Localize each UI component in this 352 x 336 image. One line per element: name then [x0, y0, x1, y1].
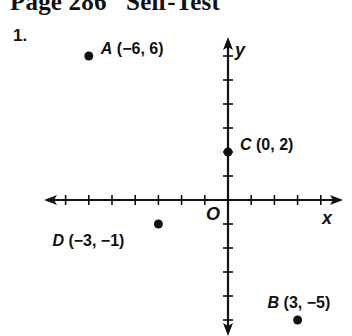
ticks: [66, 56, 321, 320]
point-b: [293, 316, 302, 325]
x-axis-label: x: [321, 208, 333, 228]
point-a: [84, 52, 93, 61]
point-label-a: A (−6, 6): [100, 40, 164, 57]
point-label-b: B (3, −5): [268, 294, 331, 311]
origin-label: O: [206, 204, 220, 224]
point-coordinates: (3, −5): [279, 294, 330, 311]
point-d: [154, 220, 163, 229]
point-letter: D: [52, 232, 64, 249]
point-label-c: C (0, 2): [240, 136, 293, 153]
y-axis-label: y: [234, 40, 246, 60]
axes: [44, 37, 343, 336]
point-letter: B: [268, 294, 280, 311]
point-coordinates: (−3, −1): [64, 232, 124, 249]
point-letter: A: [100, 40, 113, 57]
point-letter: C: [240, 136, 252, 153]
point-coordinates: (−6, 6): [112, 40, 163, 57]
coordinate-plane: A (−6, 6)B (3, −5)C (0, 2)D (−3, −1) x y…: [0, 0, 352, 336]
points: A (−6, 6)B (3, −5)C (0, 2)D (−3, −1): [52, 40, 330, 325]
point-label-d: D (−3, −1): [52, 232, 124, 249]
point-c: [224, 148, 233, 157]
point-coordinates: (0, 2): [252, 136, 294, 153]
